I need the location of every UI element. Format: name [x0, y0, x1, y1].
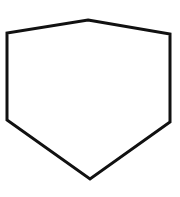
diagram-canvas: hexagon: [0, 0, 180, 197]
hexagon-outline: [7, 20, 170, 179]
hexagon-figure: [0, 0, 180, 197]
